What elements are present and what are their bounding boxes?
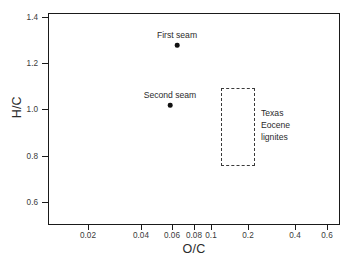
- plot-area-frame: [48, 13, 340, 225]
- data-point-second-seam[interactable]: [168, 103, 173, 108]
- y-tick-label: 1.4: [12, 14, 38, 22]
- x-tick-label: 0.02: [80, 232, 96, 240]
- y-tick-mark: [42, 156, 48, 157]
- x-tick-label: 0.1: [205, 232, 216, 240]
- x-tick-mark: [248, 225, 249, 230]
- region-label-line-3: lignites: [261, 132, 290, 144]
- x-tick-label: 0.06: [164, 232, 180, 240]
- x-tick-label: 0.4: [289, 232, 300, 240]
- x-axis-title: O/C: [48, 243, 340, 256]
- x-tick-mark: [327, 225, 328, 230]
- y-tick-mark: [42, 63, 48, 64]
- x-tick-label: 0.6: [321, 232, 332, 240]
- x-tick-mark: [141, 225, 142, 230]
- x-tick-label: 0.2: [242, 232, 253, 240]
- y-tick-label: 0.8: [12, 153, 38, 161]
- x-tick-mark: [295, 225, 296, 230]
- x-tick-mark: [88, 225, 89, 230]
- y-tick-label: 1.2: [12, 60, 38, 68]
- x-tick-mark: [194, 225, 195, 230]
- region-box-texas-eocene-lignites: [221, 88, 255, 166]
- data-point-label-first-seam: First seam: [157, 31, 197, 40]
- region-label-line-2: Eocene: [261, 120, 290, 132]
- data-point-label-second-seam: Second seam: [144, 91, 197, 100]
- scatter-chart-figure: 1.4 1.2 1.0 0.8 0.6 0.02 0.04 0.06 0.08 …: [0, 0, 351, 260]
- region-label-line-1: Texas: [261, 108, 290, 120]
- y-tick-mark: [42, 202, 48, 203]
- region-label-texas-eocene-lignites: Texas Eocene lignites: [261, 108, 290, 144]
- data-point-first-seam[interactable]: [175, 43, 180, 48]
- x-tick-mark: [211, 225, 212, 230]
- y-tick-mark: [42, 17, 48, 18]
- x-tick-mark: [172, 225, 173, 230]
- x-tick-label: 0.08: [186, 232, 202, 240]
- y-tick-mark: [42, 109, 48, 110]
- y-axis-title: H/C: [11, 77, 24, 137]
- x-tick-label: 0.04: [133, 232, 149, 240]
- y-tick-label: 0.6: [12, 199, 38, 207]
